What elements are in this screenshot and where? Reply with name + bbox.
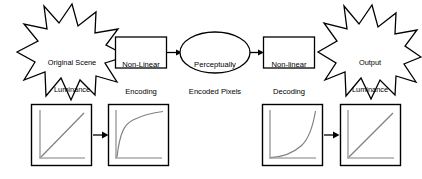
plot-linear-output-group [341,105,401,166]
plot-decoded-nonlinear-group [263,105,323,166]
diagram-canvas [0,0,422,179]
arrow-pixels-to-decoding-shape [250,49,264,55]
non-linear-decoding-box-shape [264,37,315,68]
perceptually-encoded-pixels-ellipse-shape [180,32,250,73]
output-luminance-burst-shape [318,5,421,99]
arrow-plot-decoded-to-linear-shape [324,132,340,139]
plot-linear-input-group [32,105,92,166]
original-scene-luminance-burst-shape [17,4,127,100]
plot-decoded-nonlinear-frame [263,105,323,166]
non-linear-encoding-box-shape [116,37,167,68]
pipeline-diagram: Original Scene Luminance Non-Linear Enco… [0,0,422,179]
plot-encoded-nonlinear-group [109,105,169,166]
arrow-plot-linear-to-encoded-shape [93,132,109,139]
